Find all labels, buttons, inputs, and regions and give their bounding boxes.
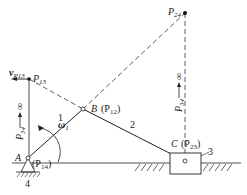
label-infinity-right: ∞ — [173, 73, 184, 80]
joint-a — [26, 156, 30, 160]
label-c: C — [171, 138, 178, 149]
slider-3 — [170, 153, 201, 174]
link-1 — [28, 109, 83, 158]
omega-arrowhead-icon — [38, 125, 44, 131]
joint-c — [183, 159, 187, 163]
label-a: A — [14, 152, 22, 163]
dashed-b-p24 — [83, 13, 185, 109]
label-p12: (P12) — [101, 103, 120, 116]
label-link-4: 4 — [25, 178, 30, 189]
label-p34-right: P34 — [173, 98, 186, 113]
infinity-arrow-left — [18, 112, 22, 128]
mechanism-diagram: P24 P13 vP13 B (P12) C (P23) A (P14) ω1 … — [0, 0, 247, 195]
label-p23: (P23) — [181, 138, 200, 151]
label-p13: P13 — [32, 73, 47, 86]
label-link-1: 1 — [58, 112, 63, 123]
point-p24 — [183, 11, 187, 15]
pivot-hatching — [17, 173, 40, 177]
label-infinity-left: ∞ — [14, 103, 25, 110]
label-p34-left: P34 — [14, 126, 27, 141]
label-p24: P24 — [167, 6, 182, 19]
label-link-3: 3 — [208, 146, 213, 157]
label-v-p13: vP13 — [9, 67, 25, 80]
label-link-2: 2 — [130, 119, 135, 130]
label-b: B — [91, 103, 97, 114]
infinity-arrow-right — [177, 82, 181, 98]
joint-b — [81, 107, 85, 111]
label-p14: (P14) — [32, 158, 51, 171]
